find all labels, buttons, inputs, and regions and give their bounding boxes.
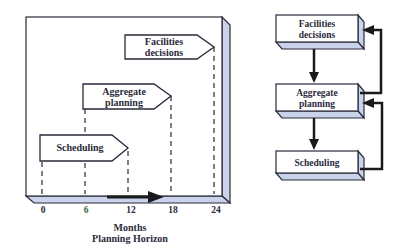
tick-label: 24 (211, 205, 221, 215)
box-label: Facilities (299, 19, 336, 29)
aggregate-planning-arrow: Aggregate planning (83, 84, 171, 109)
facilities-decisions-arrow: Facilities decisions (125, 35, 214, 59)
aggregate-planning-box: Aggregate planning (276, 84, 364, 118)
arrow-label: Scheduling (56, 142, 103, 153)
tick-label: 12 (126, 205, 136, 215)
box-label: Scheduling (295, 158, 340, 168)
tick-label: 6 (84, 205, 89, 215)
arrow-label: Aggregate (102, 86, 146, 97)
arrow-label: planning (105, 97, 143, 108)
scheduling-box: Scheduling (276, 151, 364, 180)
planning-diagram: Facilities decisions Aggregate planning … (0, 0, 399, 250)
arrow-label: decisions (145, 47, 183, 58)
box-label: Aggregate (296, 88, 338, 98)
box-label: planning (299, 99, 335, 109)
axis-ticks: 0 6 12 18 24 (41, 205, 221, 215)
axis-title: Planning Horizon (92, 233, 168, 244)
tick-label: 0 (41, 205, 46, 215)
tick-label: 18 (168, 205, 178, 215)
box-label: decisions (299, 30, 336, 40)
axis-unit-label: Months (114, 222, 147, 233)
scheduling-arrow: Scheduling (40, 135, 128, 161)
arrow-label: Facilities (145, 36, 183, 47)
facilities-decisions-box: Facilities decisions (276, 15, 364, 49)
